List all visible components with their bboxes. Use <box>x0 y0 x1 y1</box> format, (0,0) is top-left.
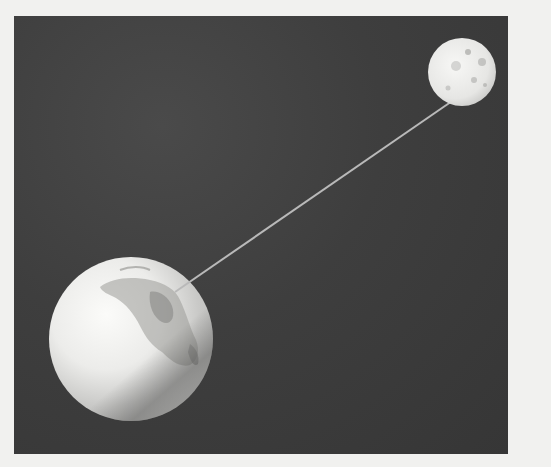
earth-moon-line <box>175 97 458 292</box>
earth-moon-illustration <box>0 0 551 467</box>
moon-globe <box>428 38 496 106</box>
earth-globe <box>30 250 250 440</box>
